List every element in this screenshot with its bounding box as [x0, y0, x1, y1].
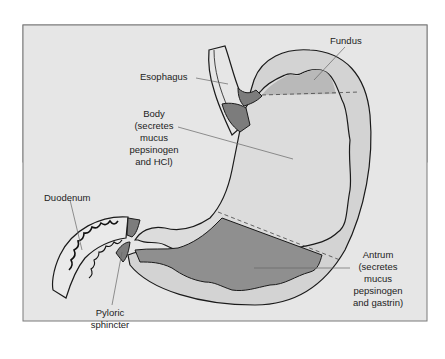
svg-text:pepsinogen: pepsinogen [353, 285, 402, 296]
svg-text:pepsinogen: pepsinogen [129, 144, 178, 155]
svg-text:Body: Body [143, 108, 165, 119]
stomach-diagram: Fundus Esophagus Body (secretes mucus pe… [0, 0, 445, 359]
svg-text:mucus: mucus [364, 273, 392, 284]
svg-text:(secretes: (secretes [134, 120, 173, 131]
svg-text:Antrum: Antrum [363, 249, 394, 260]
label-pyloric-sphincter: Pyloric sphincter [91, 307, 130, 330]
svg-text:sphincter: sphincter [91, 319, 130, 330]
label-fundus: Fundus [330, 35, 362, 46]
label-duodenum: Duodenum [44, 192, 91, 203]
label-esophagus: Esophagus [140, 71, 188, 82]
svg-text:and gastrin): and gastrin) [353, 297, 403, 308]
svg-text:mucus: mucus [140, 132, 168, 143]
svg-text:(secretes: (secretes [358, 261, 397, 272]
svg-text:Pyloric: Pyloric [96, 307, 125, 318]
svg-text:and HCl): and HCl) [135, 156, 173, 167]
